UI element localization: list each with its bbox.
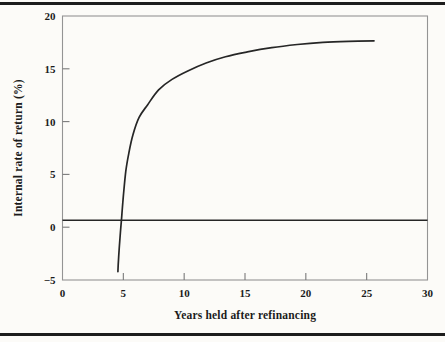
x-tick-label: 0: [60, 287, 66, 299]
x-axis-title: Years held after refinancing: [174, 309, 316, 321]
y-tick-label: −5: [44, 274, 56, 286]
bottom-rule: [0, 333, 445, 336]
x-tick-label: 25: [361, 287, 373, 299]
plot-area: 051015202530−505101520: [0, 0, 445, 342]
x-tick-label: 5: [121, 287, 127, 299]
x-tick-label: 20: [300, 287, 312, 299]
y-tick-label: 5: [50, 168, 56, 180]
x-tick-label: 10: [179, 287, 191, 299]
y-tick-label: 0: [50, 221, 56, 233]
x-tick-label: 30: [422, 287, 434, 299]
plot-border: [63, 16, 428, 280]
x-tick-label: 15: [240, 287, 252, 299]
y-tick-label: 15: [45, 63, 57, 75]
y-tick-label: 20: [45, 10, 57, 22]
figure-irr-refinancing: Internal rate of return (%) 051015202530…: [0, 0, 445, 342]
irr-curve: [118, 41, 374, 272]
y-tick-label: 10: [45, 116, 57, 128]
